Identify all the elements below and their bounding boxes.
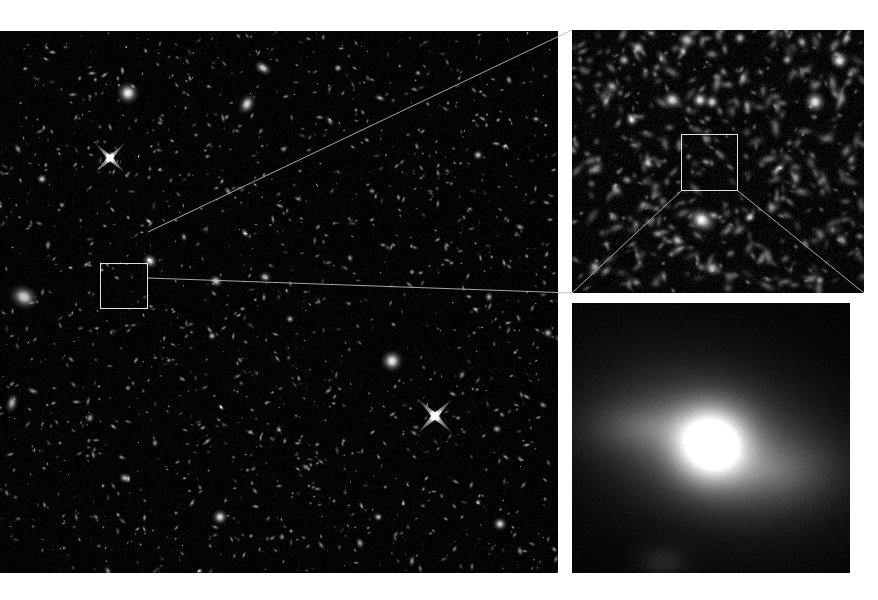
deep-zoom-canvas (572, 303, 850, 573)
intermediate-zoom-image[interactable] (572, 30, 864, 293)
deep-field-figure (0, 0, 878, 600)
main-selection-box[interactable] (100, 263, 148, 309)
deep-zoom-galaxy-image[interactable] (572, 303, 850, 573)
wide-field-canvas (0, 31, 558, 573)
wide-field-survey-image[interactable] (0, 31, 558, 573)
mid-selection-box[interactable] (681, 134, 738, 191)
